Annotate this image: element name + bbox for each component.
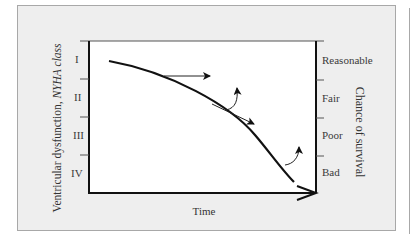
survival-bad: Bad <box>322 166 340 178</box>
improve-arrow-icon-1 <box>226 88 237 110</box>
right-axis-title: Chance of survival <box>352 87 367 178</box>
nyha-class-ii: II <box>74 91 81 103</box>
time-axis-title: Time <box>193 205 216 217</box>
survival-reasonable: Reasonable <box>322 54 373 66</box>
nyha-class-i: I <box>75 53 79 65</box>
nyha-class-iii: III <box>73 129 84 141</box>
nyha-class-iv: IV <box>71 167 83 179</box>
survival-fair: Fair <box>322 92 340 104</box>
left-axis-title: Ventricular dysfunction, NYHA class <box>51 43 63 212</box>
improve-arrow-icon-2 <box>285 147 299 165</box>
survival-poor: Poor <box>322 129 343 141</box>
left-axis-ticks <box>80 79 89 155</box>
decline-curve <box>109 61 294 182</box>
